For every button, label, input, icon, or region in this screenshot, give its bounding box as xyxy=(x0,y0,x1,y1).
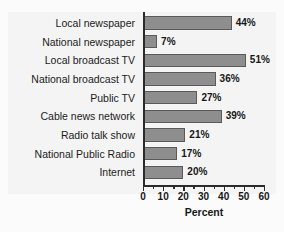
bar-row: 44% xyxy=(143,14,264,33)
x-axis-tick-label: 0 xyxy=(140,191,146,202)
bar xyxy=(143,91,197,104)
category-label: Public TV xyxy=(90,89,135,108)
x-axis-title: Percent xyxy=(143,206,265,218)
bar-value-label: 39% xyxy=(226,108,246,124)
bar-value-label: 21% xyxy=(189,127,209,143)
category-label: Local newspaper xyxy=(56,14,135,33)
bar-row: 7% xyxy=(143,33,264,52)
x-axis-minor-tick xyxy=(234,186,235,189)
bar xyxy=(143,166,183,179)
bar-chart: Local newspaperNational newspaperLocal b… xyxy=(0,0,284,232)
bar-row: 17% xyxy=(143,145,264,164)
category-label: Radio talk show xyxy=(61,126,135,145)
category-label: Cable news network xyxy=(40,107,135,126)
bar-row: 20% xyxy=(143,163,264,182)
bar xyxy=(143,128,185,141)
x-axis-minor-tick xyxy=(254,186,255,189)
category-label: Internet xyxy=(99,163,135,182)
plot-area: 44%7%51%36%27%39%21%17%20% xyxy=(143,14,264,182)
bar-value-label: 51% xyxy=(250,52,270,68)
bar-value-label: 17% xyxy=(181,146,201,162)
bar xyxy=(143,72,216,85)
bar-row: 36% xyxy=(143,70,264,89)
category-label: National broadcast TV xyxy=(31,70,135,89)
category-label: National newspaper xyxy=(42,33,135,52)
x-axis-tick-label: 60 xyxy=(258,191,269,202)
category-axis-labels: Local newspaperNational newspaperLocal b… xyxy=(0,14,139,182)
bar-value-label: 20% xyxy=(187,164,207,180)
x-axis-tick-label: 40 xyxy=(218,191,229,202)
bar-value-label: 7% xyxy=(161,34,175,50)
x-axis-tick-label: 10 xyxy=(158,191,169,202)
bar-row: 27% xyxy=(143,89,264,108)
bar xyxy=(143,16,232,29)
bar-value-label: 27% xyxy=(201,90,221,106)
bar xyxy=(143,54,246,67)
x-axis-minor-tick xyxy=(153,186,154,189)
bar xyxy=(143,110,222,123)
bar-row: 39% xyxy=(143,107,264,126)
category-label: Local broadcast TV xyxy=(45,51,135,70)
bar-value-label: 44% xyxy=(236,15,256,31)
x-axis-tick-label: 20 xyxy=(178,191,189,202)
bar-row: 51% xyxy=(143,51,264,70)
bar xyxy=(143,147,177,160)
category-label: National Public Radio xyxy=(35,145,135,164)
bar xyxy=(143,35,157,48)
bar-row: 21% xyxy=(143,126,264,145)
x-axis-minor-tick xyxy=(173,186,174,189)
x-axis-minor-tick xyxy=(214,186,215,189)
bar-value-label: 36% xyxy=(220,71,240,87)
x-axis-tick-label: 50 xyxy=(238,191,249,202)
x-axis-tick-label: 30 xyxy=(198,191,209,202)
y-axis-line xyxy=(143,12,145,186)
x-axis-minor-tick xyxy=(193,186,194,189)
